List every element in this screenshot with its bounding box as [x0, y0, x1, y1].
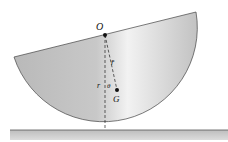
hemisphere-diagram: O r̄ r θ G — [0, 0, 228, 142]
semicircular-body — [14, 12, 197, 122]
point-o — [103, 33, 107, 37]
label-g: G — [113, 94, 120, 104]
ground — [10, 130, 228, 140]
label-theta: θ — [107, 82, 111, 90]
point-g — [115, 88, 119, 92]
label-o: O — [96, 21, 103, 32]
